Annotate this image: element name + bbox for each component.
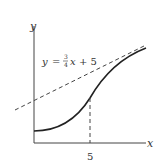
- eq-denominator: 4: [64, 61, 68, 68]
- graph-diagram: y x 5 y = 3 4 x + 5: [0, 0, 161, 164]
- eq-numerator: 3: [64, 53, 68, 60]
- eq-y: y: [41, 56, 48, 67]
- tangent-equation-label: y = 3 4 x + 5: [41, 53, 97, 68]
- eq-x: x: [70, 56, 76, 67]
- x-tick-label-5: 5: [87, 151, 93, 162]
- x-axis-label: x: [147, 137, 154, 150]
- eq-plus-five: + 5: [79, 56, 97, 67]
- eq-equals: =: [52, 56, 60, 67]
- tangent-line: [15, 45, 146, 110]
- y-axis-label: y: [29, 20, 37, 33]
